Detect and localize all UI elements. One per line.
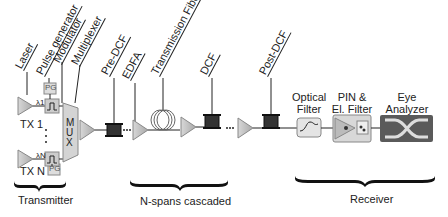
section-spans: N-spans cascaded — [140, 195, 231, 207]
pg-label-n: PG — [49, 164, 61, 173]
section-transmitter: Transmitter — [18, 194, 73, 206]
eye-analyzer-block — [380, 115, 433, 142]
pin-filter-label: PIN & El. Filter — [330, 91, 374, 115]
optical-filter-label: Optical Filter — [292, 91, 326, 115]
tx-ellipsis — [45, 129, 47, 143]
transmission-fiber-coil — [151, 110, 175, 130]
mux-label: MUX — [66, 118, 76, 148]
txn-label: TX N — [20, 165, 45, 177]
pre-dcf-coil — [105, 123, 123, 137]
eye-analyzer-label: Eye Analyzer — [384, 91, 430, 115]
pg-label-1: PG — [45, 83, 57, 92]
optical-filter-label-line2: Filter — [292, 103, 326, 115]
dots-2 — [226, 127, 234, 129]
transmitter-brace — [14, 181, 66, 192]
post-dcf-coil — [262, 114, 280, 129]
lambda-n-label: λN — [36, 151, 46, 160]
optical-filter-block — [297, 118, 321, 137]
pin-filter-label-line2: El. Filter — [330, 103, 374, 115]
edfa-2 — [181, 117, 196, 137]
tx1-label: TX 1 — [20, 118, 43, 130]
diagram: Laser Pulse generator Modulator Multiple… — [0, 0, 448, 217]
receiver-brace — [295, 176, 435, 187]
modulator-1 — [45, 94, 63, 113]
optical-filter-label-line1: Optical — [292, 91, 326, 103]
spans-brace — [130, 180, 228, 191]
edfa-3 — [238, 118, 253, 138]
eye-analyzer-label-line1: Eye — [384, 91, 430, 103]
dots-1 — [123, 129, 131, 131]
pin-el-filter-block — [333, 115, 371, 142]
booster-amp — [80, 120, 95, 140]
section-receiver: Receiver — [350, 193, 393, 205]
dcf-coil — [203, 114, 221, 129]
section-braces — [14, 176, 435, 192]
eye-analyzer-label-line2: Analyzer — [384, 103, 430, 115]
edfa-1 — [133, 120, 148, 140]
lambda-1-label: λ1 — [36, 98, 44, 107]
pin-filter-label-line1: PIN & — [330, 91, 374, 103]
